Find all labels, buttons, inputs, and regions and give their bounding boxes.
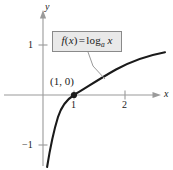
- formula-leader-line: [88, 52, 105, 79]
- point-label-1-0: (1, 0): [50, 76, 74, 87]
- x-axis-label: x: [164, 89, 168, 99]
- point-marker-1-0: [71, 92, 77, 98]
- formula-callout-box: f(x) = loga x: [52, 31, 122, 52]
- y-tick-label-neg-1: −1: [22, 140, 33, 150]
- formula-argument: x: [107, 34, 112, 46]
- x-tick-label-1: 1: [71, 100, 76, 110]
- x-axis-arrowhead: [153, 92, 162, 98]
- formula-equals: =: [79, 34, 85, 46]
- formula-operator: log: [86, 34, 101, 46]
- log-curve: [47, 52, 165, 167]
- formula-base: a: [101, 40, 105, 49]
- formula-variable: x: [69, 34, 74, 46]
- y-axis-label: y: [45, 2, 49, 12]
- formula-function-name: f: [62, 34, 65, 46]
- logarithm-graph-figure: f(x) = loga x y x 1 2 1 −1 (1, 0): [0, 0, 173, 170]
- formula-text: f(x) = loga x: [62, 34, 113, 48]
- x-tick-label-2: 2: [122, 100, 127, 110]
- y-tick-label-1: 1: [28, 40, 33, 50]
